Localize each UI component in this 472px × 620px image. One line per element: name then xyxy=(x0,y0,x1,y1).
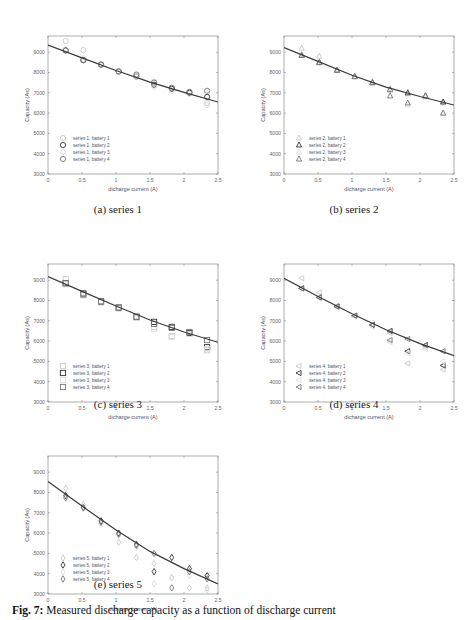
y-tick-label: 8000 xyxy=(269,69,281,75)
y-tick-label: 7000 xyxy=(269,90,281,96)
y-axis-label: Capacity (As) xyxy=(260,316,266,350)
legend-entry: series 5, battery 2 xyxy=(73,563,110,568)
y-tick-label: 4000 xyxy=(33,379,45,385)
y-tick-label: 4000 xyxy=(33,151,45,157)
x-tick-label: 2 xyxy=(183,597,186,603)
y-tick-label: 6000 xyxy=(33,338,45,344)
x-axis-label: dicharge current (A) xyxy=(344,186,394,192)
chart-panel-e: 00.511.522.53000400050006000700080009000… xyxy=(0,420,236,620)
y-tick-label: 3000 xyxy=(33,171,45,177)
x-tick-label: 2.5 xyxy=(214,597,221,603)
chart-panel-b: 00.511.522.53000400050006000700080009000… xyxy=(236,0,472,200)
legend-entry: series 1, battery 3 xyxy=(73,150,110,155)
legend-entry: series 2, battery 1 xyxy=(309,136,346,141)
x-tick-label: 0 xyxy=(283,177,286,183)
x-tick-label: 2.5 xyxy=(450,177,457,183)
y-tick-label: 7000 xyxy=(33,510,45,516)
legend-entry: series 3, battery 4 xyxy=(73,385,110,390)
subcaption-c: (c) series 3 xyxy=(0,398,236,410)
y-tick-label: 4000 xyxy=(269,379,281,385)
y-tick-label: 6000 xyxy=(269,338,281,344)
chart-panel-d: 00.511.522.53000400050006000700080009000… xyxy=(236,228,472,428)
x-tick-label: 0 xyxy=(47,597,50,603)
x-tick-label: 1.5 xyxy=(146,177,153,183)
y-tick-label: 5000 xyxy=(33,550,45,556)
y-tick-label: 4000 xyxy=(33,571,45,577)
y-tick-label: 8000 xyxy=(33,297,45,303)
y-tick-label: 6000 xyxy=(33,110,45,116)
legend-entry: series 1, battery 4 xyxy=(73,157,110,162)
chart-panel-c: 00.511.522.53000400050006000700080009000… xyxy=(0,228,236,428)
y-axis-label: Capacity (As) xyxy=(24,316,30,350)
y-tick-label: 5000 xyxy=(269,358,281,364)
legend-entry: series 3, battery 1 xyxy=(73,364,110,369)
x-tick-label: 1.5 xyxy=(382,177,389,183)
y-tick-label: 3000 xyxy=(269,171,281,177)
y-tick-label: 5000 xyxy=(269,130,281,136)
y-tick-label: 8000 xyxy=(33,69,45,75)
scatter-plot-series-2: 00.511.522.53000400050006000700080009000… xyxy=(236,0,472,200)
y-axis-label: Capacity (As) xyxy=(24,508,30,542)
y-tick-label: 8000 xyxy=(33,489,45,495)
y-tick-label: 8000 xyxy=(269,297,281,303)
subcaption-d: (d) series 4 xyxy=(236,398,472,410)
chart-panel-a: 00.511.522.53000400050006000700080009000… xyxy=(0,0,236,200)
legend-entry: series 5, battery 3 xyxy=(73,570,110,575)
x-tick-label: 2 xyxy=(183,177,186,183)
subcaption-a: (a) series 1 xyxy=(0,203,236,215)
x-tick-label: 2.5 xyxy=(214,177,221,183)
y-tick-label: 9000 xyxy=(33,469,45,475)
figure-caption: Fig. 7: Measured discharge capacity as a… xyxy=(12,604,336,616)
x-axis-label: dicharge current (A) xyxy=(108,186,158,192)
x-axis-label: dicharge current (A) xyxy=(344,414,394,420)
scatter-plot-series-1: 00.511.522.53000400050006000700080009000… xyxy=(0,0,236,200)
y-tick-label: 9000 xyxy=(33,49,45,55)
x-tick-label: 1 xyxy=(115,597,118,603)
legend-entry: series 4, battery 3 xyxy=(309,378,346,383)
legend-entry: series 5, battery 1 xyxy=(73,556,110,561)
subcaption-b: (b) series 2 xyxy=(236,203,472,215)
scatter-plot-series-5: 00.511.522.53000400050006000700080009000… xyxy=(0,420,236,620)
y-tick-label: 9000 xyxy=(269,49,281,55)
y-tick-label: 5000 xyxy=(33,130,45,136)
y-tick-label: 7000 xyxy=(269,318,281,324)
x-tick-label: 2 xyxy=(419,177,422,183)
y-tick-label: 6000 xyxy=(269,110,281,116)
legend-entry: series 3, battery 2 xyxy=(73,371,110,376)
figure-caption-text: Measured discharge capacity as a functio… xyxy=(46,604,336,616)
y-axis-label: Capacity (As) xyxy=(24,88,30,122)
x-tick-label: 0.5 xyxy=(314,177,321,183)
legend-entry: series 4, battery 2 xyxy=(309,371,346,376)
legend-entry: series 2, battery 2 xyxy=(309,143,346,148)
x-tick-label: 1 xyxy=(351,177,354,183)
legend-entry: series 3, battery 3 xyxy=(73,378,110,383)
y-tick-label: 9000 xyxy=(33,277,45,283)
y-tick-label: 7000 xyxy=(33,90,45,96)
x-tick-label: 1 xyxy=(115,177,118,183)
figure-caption-label: Fig. 7: xyxy=(12,604,43,616)
legend-entry: series 4, battery 1 xyxy=(309,364,346,369)
x-tick-label: 0.5 xyxy=(78,177,85,183)
y-axis-label: Capacity (As) xyxy=(260,88,266,122)
legend-entry: series 4, battery 4 xyxy=(309,385,346,390)
legend-entry: series 2, battery 4 xyxy=(309,157,346,162)
y-tick-label: 7000 xyxy=(33,318,45,324)
x-tick-label: 0 xyxy=(47,177,50,183)
legend-entry: series 2, battery 3 xyxy=(309,150,346,155)
y-tick-label: 9000 xyxy=(269,277,281,283)
y-tick-label: 4000 xyxy=(269,151,281,157)
y-tick-label: 6000 xyxy=(33,530,45,536)
x-tick-label: 0.5 xyxy=(78,597,85,603)
subcaption-e: (e) series 5 xyxy=(0,578,236,590)
legend-entry: series 1, battery 1 xyxy=(73,136,110,141)
y-tick-label: 5000 xyxy=(33,358,45,364)
y-tick-label: 3000 xyxy=(33,591,45,597)
x-tick-label: 1.5 xyxy=(146,597,153,603)
legend-entry: series 1, battery 2 xyxy=(73,143,110,148)
